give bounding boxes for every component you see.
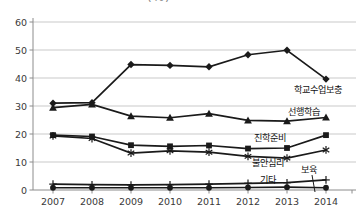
y-axis-tick-label: 60: [15, 17, 27, 28]
marker-diamond: [166, 62, 173, 69]
x-axis-tick-label: 2009: [119, 196, 143, 207]
marker-circle: [206, 185, 212, 191]
marker-diamond: [205, 63, 212, 70]
line-chart: 0102030405060200720082009201020112012201…: [0, 0, 361, 218]
series-label-4: 기타: [260, 174, 277, 185]
y-axis-tick-label: 0: [21, 185, 27, 196]
y-axis-tick-label: 50: [15, 45, 27, 56]
series-label-0: 학교수업보충: [294, 84, 342, 95]
x-axis-tick-label: 2011: [197, 196, 221, 207]
marker-square: [323, 132, 329, 138]
marker-square: [206, 143, 212, 149]
series-leader-line-5: [312, 175, 315, 192]
x-axis-tick-label: 2008: [80, 196, 104, 207]
marker-circle: [167, 185, 173, 191]
marker-circle: [323, 185, 329, 191]
marker-square: [245, 146, 251, 152]
y-axis-tick-label: 40: [15, 73, 27, 84]
series-line-0: [53, 50, 326, 103]
marker-circle: [89, 185, 95, 191]
marker-circle: [128, 185, 134, 191]
series-label-2: 진학준비: [254, 132, 286, 143]
x-axis-tick-label: 2014: [314, 196, 338, 207]
marker-square: [284, 145, 290, 151]
x-axis-tick-label: 2013: [275, 196, 299, 207]
x-axis-tick-label: 2012: [236, 196, 260, 207]
marker-square: [128, 142, 134, 148]
y-axis-tick-label: 30: [15, 101, 27, 112]
x-axis-tick-label: 2010: [158, 196, 182, 207]
y-axis-tick-label: 10: [15, 157, 27, 168]
marker-circle: [50, 185, 56, 191]
marker-circle: [284, 184, 290, 190]
series-label-3: 불안심리: [252, 157, 284, 168]
series-label-1: 선행학습: [288, 106, 320, 117]
y-axis-tick-label: 20: [15, 129, 27, 140]
marker-diamond: [244, 51, 251, 58]
chart-screenshot: (%) 010203040506020072008200920102011201…: [0, 0, 361, 218]
series-label-5: 보육: [301, 164, 317, 175]
marker-circle: [245, 185, 251, 191]
x-axis-tick-label: 2007: [41, 196, 65, 207]
